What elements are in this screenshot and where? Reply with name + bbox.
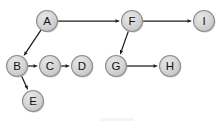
node-label: C: [46, 60, 54, 72]
compression-artifact: [100, 118, 134, 121]
graph-node-h[interactable]: H: [160, 56, 182, 78]
edge-c-to-d: [61, 64, 70, 67]
graph-node-d[interactable]: D: [72, 56, 94, 78]
edge-b-to-c: [28, 64, 38, 67]
node-label: I: [202, 15, 205, 27]
node-label: B: [13, 60, 21, 72]
arrowhead-icon: [187, 19, 192, 22]
nodes-layer: ABCDEFGHI: [7, 11, 216, 113]
node-label: A: [43, 15, 51, 27]
graph-node-e[interactable]: E: [23, 91, 45, 113]
arrowhead-icon: [115, 19, 120, 22]
node-label: F: [128, 15, 135, 27]
node-label: E: [29, 95, 37, 107]
arrowhead-icon: [153, 64, 158, 67]
edge-g-to-h: [127, 64, 158, 67]
arrowhead-icon: [25, 85, 28, 90]
arrowhead-icon: [120, 50, 123, 55]
edge-f-to-g: [120, 31, 128, 54]
node-label: H: [166, 60, 174, 72]
edge-f-to-i: [143, 19, 192, 22]
graph-node-i[interactable]: I: [194, 11, 216, 33]
graph-svg: ABCDEFGHI: [0, 0, 221, 127]
edge-b-to-e: [22, 76, 28, 90]
graph-node-b[interactable]: B: [7, 56, 29, 78]
edge-a-to-f: [58, 19, 120, 22]
arrowhead-icon: [65, 64, 70, 67]
node-label: G: [112, 60, 121, 72]
node-label: D: [78, 60, 86, 72]
graph-node-c[interactable]: C: [40, 56, 62, 78]
graph-canvas: ABCDEFGHI: [0, 0, 221, 127]
graph-node-g[interactable]: G: [106, 56, 128, 78]
graph-node-a[interactable]: A: [37, 11, 59, 33]
edge-a-to-b: [24, 30, 41, 56]
graph-node-f[interactable]: F: [122, 11, 144, 33]
arrowhead-icon: [33, 64, 38, 67]
